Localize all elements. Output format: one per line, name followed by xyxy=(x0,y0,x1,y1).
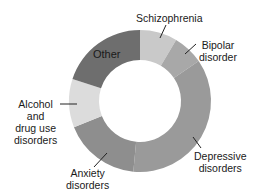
label-alcohol-line4: disorders xyxy=(14,134,57,146)
label-alcohol: Alcohol and drug use disorders xyxy=(14,98,57,146)
label-anxiety-line2: disorders xyxy=(66,179,109,191)
label-bipolar-line1: Bipolar xyxy=(199,39,237,51)
label-alcohol-line2: and xyxy=(14,110,57,122)
label-bipolar: Bipolar disorder xyxy=(199,39,237,63)
label-alcohol-line3: drug use xyxy=(14,122,57,134)
label-bipolar-line2: disorder xyxy=(199,51,237,63)
label-schizophrenia: Schizophrenia xyxy=(136,12,203,24)
slice-anxiety-disorders xyxy=(74,116,136,172)
label-depressive-line2: disorders xyxy=(194,162,247,174)
label-alcohol-line1: Alcohol xyxy=(14,98,57,110)
label-other: Other xyxy=(93,48,121,60)
label-depressive: Depressive disorders xyxy=(194,150,247,174)
label-anxiety: Anxiety disorders xyxy=(66,167,109,191)
label-depressive-line1: Depressive xyxy=(194,150,247,162)
label-anxiety-line1: Anxiety xyxy=(66,167,109,179)
